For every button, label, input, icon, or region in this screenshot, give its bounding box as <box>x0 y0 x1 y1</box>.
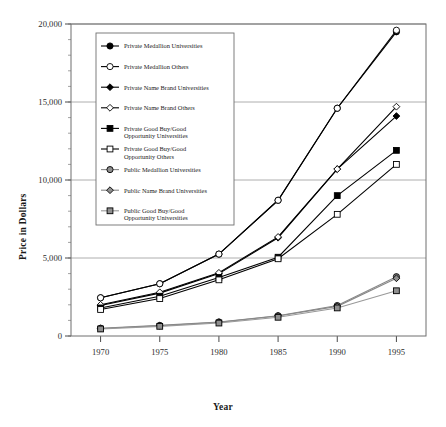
data-point-marker <box>394 288 400 294</box>
chart-legend: Private Medallion UniversitiesPrivate Me… <box>96 33 234 225</box>
legend-label: Private Good Buy/Good <box>124 125 187 132</box>
data-point-marker <box>107 126 113 132</box>
line-chart-plot: 05,00010,00015,00020,000 197019751980198… <box>0 0 446 427</box>
data-point-marker <box>157 281 163 287</box>
data-point-marker <box>334 305 340 311</box>
y-tick-label: 20,000 <box>38 19 62 29</box>
x-ticks-group <box>101 336 397 342</box>
legend-label: Public Medallion Universities <box>124 166 201 173</box>
data-point-marker <box>216 251 222 257</box>
legend-label: Private Name Brand Universities <box>124 84 209 91</box>
data-point-marker <box>107 146 113 152</box>
data-point-marker <box>107 167 113 173</box>
y-tick-label: 15,000 <box>38 97 62 107</box>
data-point-marker <box>107 208 113 214</box>
data-point-marker <box>157 296 163 302</box>
data-point-marker <box>216 277 222 283</box>
data-point-marker <box>394 162 400 168</box>
y-tick-labels-group: 05,00010,00015,00020,000 <box>38 19 62 341</box>
legend-label-continued: Opportunity Others <box>124 153 174 160</box>
x-tick-label: 1995 <box>388 347 405 357</box>
data-point-marker <box>394 147 400 153</box>
legend-label: Private Name Brand Others <box>124 104 195 111</box>
data-point-marker <box>393 27 399 33</box>
x-tick-label: 1975 <box>151 347 168 357</box>
y-tick-label: 5,000 <box>43 253 62 263</box>
data-point-marker <box>107 64 113 70</box>
data-point-marker <box>275 197 281 203</box>
x-tick-label: 1980 <box>210 347 227 357</box>
x-tick-label: 1970 <box>92 347 109 357</box>
legend-label-continued: Opportunity Universities <box>124 132 188 139</box>
chart-figure: Price in Dollars Year 05,00010,00015,000… <box>0 0 446 427</box>
legend-label-continued: Opportunity Universities <box>124 214 188 221</box>
x-tick-label: 1985 <box>269 347 286 357</box>
legend-label: Private Medallion Others <box>124 63 189 70</box>
legend-label: Public Name Brand Universities <box>124 187 207 194</box>
data-point-marker <box>216 320 222 326</box>
legend-label: Private Good Buy/Good <box>124 145 187 152</box>
data-point-marker <box>157 323 163 329</box>
data-point-marker <box>334 105 340 111</box>
legend-label: Private Medallion Universities <box>124 42 203 49</box>
data-point-marker <box>98 326 104 332</box>
data-point-marker <box>98 307 104 313</box>
data-point-marker <box>107 43 113 49</box>
data-point-marker <box>275 314 281 320</box>
data-point-marker <box>275 256 281 262</box>
y-tick-label: 0 <box>58 331 62 341</box>
y-tick-label: 10,000 <box>38 175 62 185</box>
data-point-marker <box>97 295 103 301</box>
legend-label: Public Good Buy/Good <box>124 207 185 214</box>
x-tick-labels-group: 197019751980198519901995 <box>92 347 405 357</box>
x-tick-label: 1990 <box>329 347 346 357</box>
data-point-marker <box>334 211 340 217</box>
data-point-marker <box>334 193 340 199</box>
